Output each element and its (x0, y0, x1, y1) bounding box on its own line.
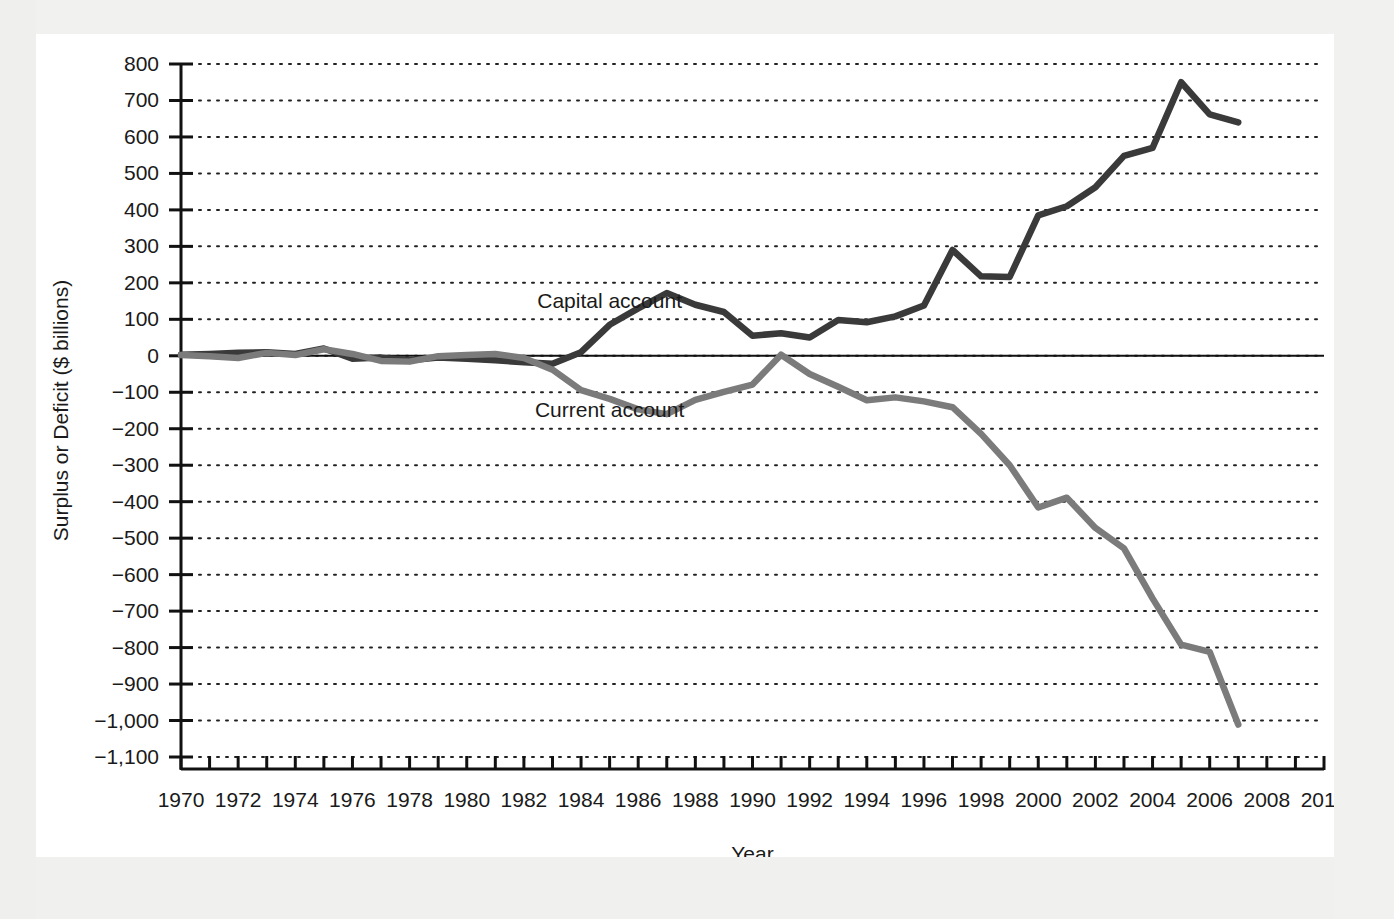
svg-text:500: 500 (124, 161, 159, 184)
svg-text:−200: −200 (112, 417, 159, 440)
svg-text:1972: 1972 (215, 788, 262, 811)
line-chart: 8007006005004003002001000−100−200−300−40… (36, 34, 1334, 857)
svg-text:400: 400 (124, 198, 159, 221)
svg-text:2010: 2010 (1301, 788, 1334, 811)
svg-text:1982: 1982 (501, 788, 548, 811)
page-margin-right (1334, 0, 1394, 919)
svg-text:Current account: Current account (535, 398, 685, 421)
svg-text:1988: 1988 (672, 788, 719, 811)
svg-text:−700: −700 (112, 599, 159, 622)
x-axis: 1970197219741976197819801982198419861988… (158, 756, 1334, 811)
svg-text:−900: −900 (112, 672, 159, 695)
svg-text:−800: −800 (112, 636, 159, 659)
svg-text:300: 300 (124, 234, 159, 257)
svg-text:2000: 2000 (1015, 788, 1062, 811)
svg-text:1998: 1998 (958, 788, 1005, 811)
y-axis: 8007006005004003002001000−100−200−300−40… (94, 52, 193, 769)
gridlines (181, 64, 1324, 757)
svg-text:−600: −600 (112, 563, 159, 586)
svg-text:2006: 2006 (1186, 788, 1233, 811)
svg-text:1994: 1994 (843, 788, 890, 811)
figure-card: 8007006005004003002001000−100−200−300−40… (36, 34, 1334, 857)
svg-text:1980: 1980 (443, 788, 490, 811)
svg-text:1984: 1984 (558, 788, 605, 811)
svg-text:1974: 1974 (272, 788, 319, 811)
svg-text:−1,000: −1,000 (94, 709, 159, 732)
scanned-page: 8007006005004003002001000−100−200−300−40… (0, 0, 1394, 919)
svg-text:1970: 1970 (158, 788, 205, 811)
page-margin-top (0, 0, 1394, 34)
svg-text:1978: 1978 (386, 788, 433, 811)
svg-text:800: 800 (124, 52, 159, 75)
svg-text:600: 600 (124, 125, 159, 148)
svg-text:1986: 1986 (615, 788, 662, 811)
svg-text:1976: 1976 (329, 788, 376, 811)
svg-text:1990: 1990 (729, 788, 776, 811)
data-series (181, 82, 1238, 724)
svg-text:2002: 2002 (1072, 788, 1119, 811)
svg-text:−100: −100 (112, 380, 159, 403)
svg-text:0: 0 (147, 344, 159, 367)
page-margin-bottom (0, 857, 1394, 919)
svg-text:−500: −500 (112, 526, 159, 549)
svg-text:Capital account: Capital account (537, 289, 682, 312)
svg-text:1996: 1996 (901, 788, 948, 811)
svg-text:100: 100 (124, 307, 159, 330)
svg-text:−1,100: −1,100 (94, 745, 159, 768)
svg-text:1992: 1992 (786, 788, 833, 811)
svg-text:2004: 2004 (1129, 788, 1176, 811)
svg-text:Year: Year (731, 842, 773, 857)
svg-text:200: 200 (124, 271, 159, 294)
svg-text:−300: −300 (112, 453, 159, 476)
svg-text:−400: −400 (112, 490, 159, 513)
svg-text:2008: 2008 (1243, 788, 1290, 811)
svg-text:700: 700 (124, 88, 159, 111)
svg-text:Surplus or Deficit ($ billions: Surplus or Deficit ($ billions) (49, 280, 72, 541)
page-margin-left (0, 0, 36, 919)
